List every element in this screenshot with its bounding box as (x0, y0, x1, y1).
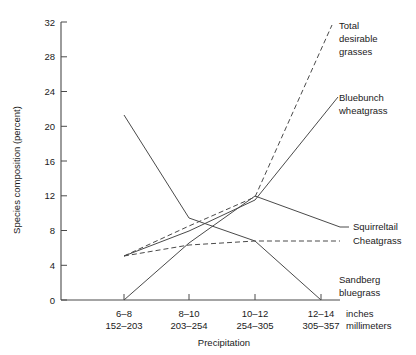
y-tick-label-12: 12 (44, 190, 55, 201)
label-sandberg-line1: Sandberg (339, 274, 380, 285)
series-total-desirable-grasses (124, 25, 332, 256)
label-bluebunch-line1: Bluebunch (339, 92, 384, 103)
squirreltail-line (124, 196, 340, 300)
y-tick-label-20: 20 (44, 121, 55, 132)
y-tick-marks (61, 22, 67, 300)
sandberg-bluegrass-line (124, 115, 321, 300)
series-label-bluebunch-wheatgrass: Bluebunch wheatgrass (338, 92, 388, 116)
line-chart: 0 4 8 12 16 20 24 28 32 (0, 0, 416, 355)
total-desirable-grasses-line (124, 25, 332, 256)
x-cat-4-inches: 12–14 (308, 308, 334, 319)
x-axis-title: Precipitation (198, 337, 250, 348)
label-squirreltail: Squirreltail (353, 221, 398, 232)
series-squirreltail (124, 196, 340, 300)
series-label-total-desirable-grasses: Total desirable grasses (339, 20, 378, 57)
y-axis-title: Species composition (percent) (11, 106, 22, 234)
x-cat-3-mm: 254–305 (237, 320, 274, 331)
x-cat-2-inches: 8–10 (178, 308, 199, 319)
y-tick-label-28: 28 (44, 51, 55, 62)
label-cheatgrass: Cheatgrass (353, 235, 402, 246)
y-tick-label-24: 24 (44, 86, 55, 97)
label-total-line2: desirable (339, 33, 378, 44)
x-cat-2-mm: 203–254 (171, 320, 208, 331)
label-sandberg-line2: bluegrass (339, 287, 380, 298)
series-label-cheatgrass: Cheatgrass (353, 235, 402, 246)
y-tick-label-32: 32 (44, 17, 55, 28)
label-total-line1: Total (339, 20, 359, 31)
axis-group (61, 22, 340, 300)
series-label-sandberg-bluegrass: Sandberg bluegrass (339, 274, 380, 298)
y-tick-labels: 0 4 8 12 16 20 24 28 32 (44, 17, 55, 306)
x-unit-millimeters: millimeters (346, 320, 392, 331)
label-total-line3: grasses (339, 46, 373, 57)
x-unit-inches: inches (346, 308, 374, 319)
label-bluebunch-line2: wheatgrass (338, 105, 388, 116)
series-sandberg-bluegrass (124, 115, 321, 300)
x-category-labels: 6–8 152–203 8–10 203–254 10–12 254–305 1… (106, 308, 392, 331)
x-tick-marks (124, 294, 321, 300)
y-tick-label-16: 16 (44, 156, 55, 167)
chart-svg: 0 4 8 12 16 20 24 28 32 (0, 0, 416, 355)
x-cat-4-mm: 305–357 (303, 320, 340, 331)
x-cat-1-inches: 6–8 (116, 308, 132, 319)
x-cat-3-inches: 10–12 (242, 308, 268, 319)
y-tick-label-4: 4 (50, 260, 55, 271)
y-tick-label-0: 0 (50, 295, 55, 306)
y-tick-label-8: 8 (50, 225, 55, 236)
x-cat-1-mm: 152–203 (106, 320, 143, 331)
series-label-squirreltail: Squirreltail (340, 221, 398, 232)
